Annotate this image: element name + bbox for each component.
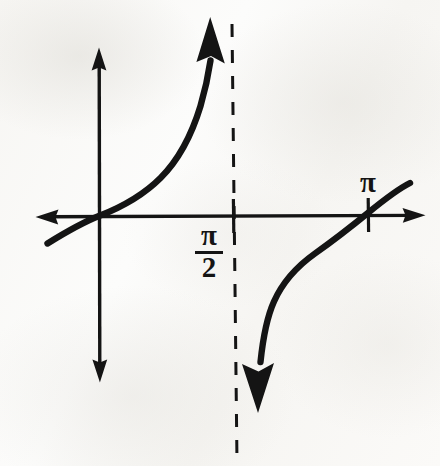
pi-over-2-denominator: 2 <box>202 251 217 283</box>
graph-canvas: π 2 π <box>0 0 440 466</box>
tan-branch-rising <box>48 17 225 244</box>
y-axis-top-arrowhead <box>92 48 107 71</box>
pi-over-2-numerator: π <box>201 219 217 251</box>
x-axis-left-arrowhead <box>36 210 59 225</box>
tan-branch-falling-path <box>261 183 411 362</box>
vertical-asymptote <box>232 24 237 462</box>
pi-label-text: π <box>360 166 376 198</box>
x-axis-right-arrowhead <box>403 208 426 223</box>
asymptote-dashed-line <box>232 24 237 462</box>
label-pi: π <box>360 166 376 198</box>
y-axis-bottom-arrowhead <box>92 360 107 383</box>
label-pi-over-2: π 2 <box>195 219 223 283</box>
tangent-graph-figure: π 2 π <box>0 0 440 466</box>
tan-branch-rising-arrowhead <box>196 17 224 64</box>
tan-branch-falling-arrowhead <box>242 363 274 413</box>
